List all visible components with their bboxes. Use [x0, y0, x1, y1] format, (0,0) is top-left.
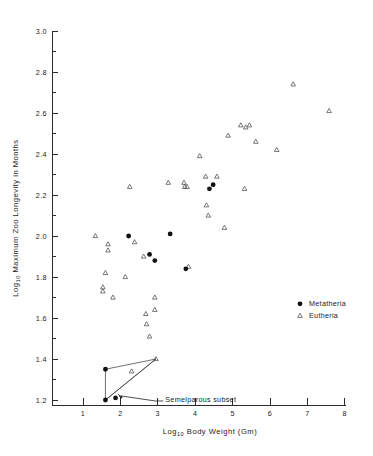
x-axis-title: Log10 Body Weight (Gm) — [163, 427, 257, 437]
data-point-metatheria — [126, 234, 131, 239]
data-point-metatheria — [103, 367, 108, 372]
x-tick-label-7: 7 — [305, 409, 309, 418]
data-series-metatheria — [103, 182, 216, 402]
y-tick-label-2.8: 2.8 — [36, 68, 47, 77]
plot-annotations: Semelparous subset — [118, 394, 236, 404]
data-point-eutheria — [253, 139, 258, 143]
data-point-eutheria — [226, 133, 231, 137]
data-point-eutheria — [129, 369, 134, 373]
axis-tick-labels: 1.21.41.61.82.02.22.42.62.83.012345678 — [36, 27, 347, 418]
y-axis-title: Log10 Maximum Zoo Longevity in Months — [11, 139, 21, 296]
y-tick-label-1.4: 1.4 — [36, 355, 47, 364]
x-tick-label-4: 4 — [193, 409, 197, 418]
x-tick-label-5: 5 — [230, 409, 234, 418]
data-point-eutheria — [166, 180, 171, 184]
x-tick-label-1: 1 — [81, 409, 85, 418]
legend-marker-eutheria — [298, 313, 303, 317]
axis-ticks — [52, 31, 345, 405]
semelparous-subset-label: Semelparous subset — [165, 395, 236, 404]
x-axis-title-log: Log — [163, 427, 177, 436]
data-point-metatheria — [152, 258, 157, 263]
x-axis-title-main: Body Weight (Gm) — [184, 427, 257, 436]
data-point-eutheria — [215, 174, 220, 178]
data-point-eutheria — [144, 311, 149, 315]
axes — [52, 31, 346, 405]
data-point-metatheria — [183, 266, 188, 271]
data-point-eutheria — [147, 334, 152, 338]
legend-marker-metatheria — [298, 301, 303, 306]
data-point-eutheria — [106, 248, 111, 252]
axis-lines — [52, 31, 346, 405]
data-point-metatheria — [207, 186, 212, 191]
y-tick-label-2.2: 2.2 — [36, 191, 47, 200]
data-point-eutheria — [101, 289, 106, 293]
x-tick-label-3: 3 — [156, 409, 160, 418]
y-tick-label-2.6: 2.6 — [36, 109, 47, 118]
y-axis-title-log: Log — [11, 282, 20, 296]
chart-legend: MetatheriaEutheria — [298, 299, 346, 320]
data-point-eutheria — [154, 356, 159, 360]
data-point-eutheria — [274, 147, 279, 151]
y-tick-label-3.0: 3.0 — [36, 27, 47, 36]
data-point-eutheria — [127, 184, 132, 188]
x-tick-label-8: 8 — [343, 409, 347, 418]
data-point-eutheria — [242, 186, 247, 190]
data-point-eutheria — [93, 233, 98, 237]
data-point-eutheria — [206, 213, 211, 217]
data-point-metatheria — [211, 182, 216, 187]
data-point-eutheria — [291, 82, 296, 86]
data-point-metatheria — [113, 396, 118, 401]
legend-label-metatheria: Metatheria — [309, 299, 346, 308]
y-tick-label-1.2: 1.2 — [36, 396, 47, 405]
data-point-eutheria — [106, 242, 111, 246]
data-point-eutheria — [182, 180, 187, 184]
data-point-eutheria — [203, 174, 208, 178]
y-tick-label-1.6: 1.6 — [36, 314, 47, 323]
data-point-eutheria — [103, 270, 108, 274]
data-point-metatheria — [147, 252, 152, 257]
data-point-eutheria — [123, 274, 128, 278]
data-point-eutheria — [153, 307, 158, 311]
x-tick-label-2: 2 — [118, 409, 122, 418]
semelparous-subset-leader-line — [121, 396, 163, 401]
scatter-plot-figure: 1.21.41.61.82.02.22.42.62.83.012345678 S… — [0, 0, 373, 456]
data-point-eutheria — [111, 295, 116, 299]
data-point-eutheria — [144, 322, 149, 326]
data-point-eutheria — [204, 203, 209, 207]
data-point-eutheria — [222, 225, 227, 229]
data-point-metatheria — [168, 232, 173, 237]
data-point-eutheria — [197, 154, 202, 158]
y-axis-title-main: Maximum Zoo Longevity in Months — [11, 139, 20, 275]
data-series-eutheria — [93, 82, 331, 373]
semelparous-subset-hull-edge — [105, 359, 155, 400]
data-point-eutheria — [239, 123, 244, 127]
y-axis-title-subscript: 10 — [15, 275, 21, 282]
x-tick-label-6: 6 — [268, 409, 272, 418]
x-axis-title-subscript: 10 — [177, 431, 184, 437]
semelparous-subset-hull — [105, 359, 155, 400]
y-tick-label-1.8: 1.8 — [36, 273, 47, 282]
data-point-eutheria — [141, 254, 146, 258]
data-point-eutheria — [153, 295, 158, 299]
chart-canvas: 1.21.41.61.82.02.22.42.62.83.012345678 S… — [0, 0, 373, 456]
data-point-eutheria — [247, 123, 252, 127]
legend-label-eutheria: Eutheria — [309, 311, 338, 320]
data-point-metatheria — [103, 398, 108, 403]
y-tick-label-2.0: 2.0 — [36, 232, 47, 241]
data-point-eutheria — [132, 240, 137, 244]
y-tick-label-2.4: 2.4 — [36, 150, 47, 159]
data-point-eutheria — [327, 108, 332, 112]
